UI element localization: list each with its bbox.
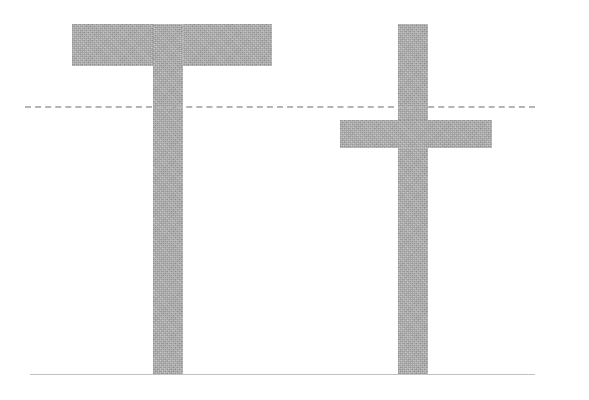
lowercase-t-stem	[398, 24, 428, 375]
lowercase-t-crossbar	[340, 120, 492, 148]
x-height-guide-line	[25, 106, 535, 108]
glyph-diagram-canvas	[0, 0, 589, 400]
baseline-guide-line	[30, 374, 535, 375]
uppercase-t-stem	[153, 24, 183, 375]
